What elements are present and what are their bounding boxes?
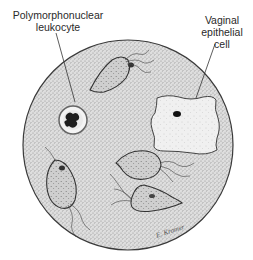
label-pmn-line2: leukocyte: [8, 21, 108, 33]
label-vag-line3: cell: [194, 38, 250, 50]
label-polymorphonuclear-leukocyte: Polymorphonuclear leukocyte: [8, 9, 108, 33]
vaginal-epithelial-cell: [151, 96, 219, 154]
label-vag-line1: Vaginal: [194, 14, 250, 26]
label-vaginal-epithelial-cell: Vaginal epithelial cell: [194, 14, 250, 50]
label-pmn-line1: Polymorphonuclear: [8, 9, 108, 21]
label-vag-line2: epithelial: [194, 26, 250, 38]
polymorphonuclear-leukocyte: [59, 106, 87, 134]
